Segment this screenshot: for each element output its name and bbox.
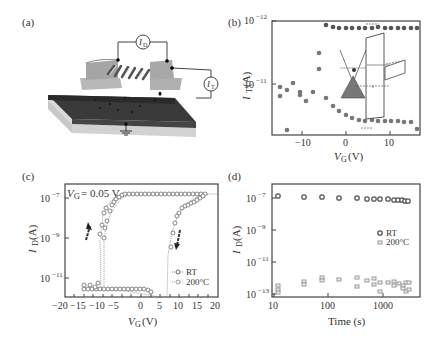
svg-text:−9: −9 [258, 223, 266, 231]
svg-text:Time (s): Time (s) [328, 315, 366, 328]
svg-text:10: 10 [246, 257, 256, 268]
chart-d-retention: 101001000 Time (s) 10−7 10−9 10−11 10−13… [0, 0, 442, 348]
svg-text:I: I [230, 249, 242, 255]
svg-text:10: 10 [246, 225, 256, 236]
svg-text:200°C: 200°C [386, 237, 409, 247]
legend-d: RT 200°C [378, 228, 409, 247]
svg-text:10: 10 [268, 300, 278, 311]
svg-text:100: 100 [320, 300, 335, 311]
svg-text:(A): (A) [230, 225, 243, 241]
svg-text:−11: −11 [258, 255, 269, 263]
svg-text:10: 10 [246, 289, 256, 300]
svg-text:1000: 1000 [373, 300, 393, 311]
svg-text:10: 10 [246, 193, 256, 204]
svg-text:−7: −7 [258, 191, 266, 199]
svg-text:−13: −13 [258, 287, 269, 295]
